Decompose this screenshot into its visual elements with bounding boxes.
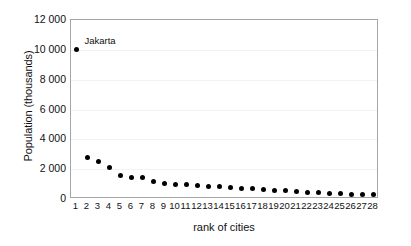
x-tick-label: 11: [181, 200, 191, 211]
scatter-chart-figure: Population (thousands) 02 0004 0006 0008…: [0, 0, 411, 246]
x-tick-label: 14: [213, 200, 224, 211]
y-tick-label: 6 000: [18, 103, 66, 115]
x-tick-label: 13: [202, 200, 213, 211]
x-tick-label: 21: [290, 200, 301, 211]
data-point: [327, 191, 332, 196]
data-point: [294, 189, 299, 194]
y-tick-label: 2 000: [18, 162, 66, 174]
x-tick-label: 23: [312, 200, 323, 211]
y-tick-label: 10 000: [18, 43, 66, 55]
data-point: [162, 181, 167, 186]
x-tick-label: 22: [301, 200, 312, 211]
y-tick-label: 0: [18, 192, 66, 204]
data-point: [151, 179, 156, 184]
x-tick-label: 16: [235, 200, 246, 211]
data-point: [283, 188, 288, 193]
x-tick-label: 8: [150, 200, 155, 211]
x-tick-label: 9: [161, 200, 166, 211]
x-tick-label: 10: [169, 200, 180, 211]
data-point: [118, 173, 123, 178]
x-tick-label: 5: [117, 200, 122, 211]
data-point: [74, 47, 79, 52]
data-point: [349, 192, 354, 197]
data-point: [272, 188, 277, 193]
x-tick-label: 28: [367, 200, 378, 211]
data-point: [239, 186, 244, 191]
data-point: [305, 190, 310, 195]
data-point: [217, 184, 222, 189]
data-point: [85, 155, 90, 160]
x-tick-label: 3: [95, 200, 100, 211]
x-tick-label: 6: [128, 200, 133, 211]
x-tick-label: 25: [334, 200, 345, 211]
data-point: [360, 192, 365, 197]
x-tick-label: 24: [323, 200, 334, 211]
y-tick-label: 4 000: [18, 132, 66, 144]
data-point: [129, 175, 134, 180]
data-point: [107, 165, 112, 170]
x-tick-label: 26: [345, 200, 356, 211]
data-points-layer: Jakarta: [71, 20, 377, 197]
x-tick-label: 18: [257, 200, 268, 211]
x-tick-label: 17: [246, 200, 257, 211]
y-axis-tick-labels: 02 0004 0006 0008 00010 00012 000: [18, 13, 66, 203]
data-point: [184, 182, 189, 187]
x-tick-label: 20: [279, 200, 290, 211]
data-point: [371, 192, 376, 197]
data-point: [195, 183, 200, 188]
x-tick-label: 19: [268, 200, 279, 211]
x-axis-tick-labels: 1234567891011121314151617181920212223242…: [70, 200, 378, 216]
data-point: [173, 182, 178, 187]
data-point: [140, 175, 145, 180]
data-point: [338, 191, 343, 196]
data-point: [261, 187, 266, 192]
data-point: [96, 159, 101, 164]
data-point: [316, 190, 321, 195]
x-tick-label: 2: [84, 200, 89, 211]
plot-area: Jakarta: [70, 19, 378, 198]
data-point: [206, 184, 211, 189]
x-tick-label: 15: [224, 200, 235, 211]
data-point: [228, 185, 233, 190]
x-tick-label: 7: [139, 200, 144, 211]
x-tick-label: 12: [191, 200, 202, 211]
data-point: [250, 186, 255, 191]
x-axis-title: rank of cities: [70, 221, 378, 233]
x-tick-label: 27: [356, 200, 367, 211]
y-tick-label: 12 000: [18, 13, 66, 25]
annotation-label-jakarta: Jakarta: [85, 35, 116, 46]
y-tick-label: 8 000: [18, 73, 66, 85]
x-tick-label: 4: [106, 200, 111, 211]
x-tick-label: 1: [73, 200, 78, 211]
